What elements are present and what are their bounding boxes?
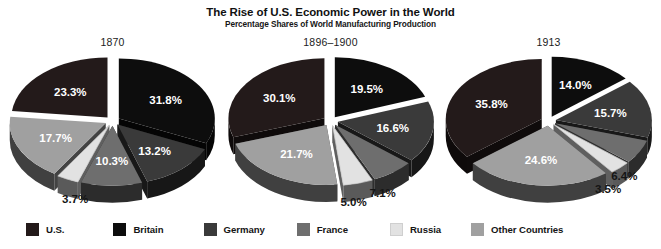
pie-slice-value-label: 3.7% [62,193,88,205]
pie-slice-value-label: 19.5% [350,83,383,95]
legend-item: Other Countries [471,219,563,239]
legend-label: Britain [133,224,163,235]
page-title: The Rise of U.S. Economic Power in the W… [0,6,661,19]
legend-item: Germany [204,219,265,239]
panel-year-label: 1870 [2,36,223,48]
pie-slice-value-label: 10.3% [96,155,129,167]
pie-panel-1896-1900: 1896–1900 19.5%16.6%7.1%5.0%21.7%30.1% [220,36,441,211]
legend-label: Russia [410,224,441,235]
pie-chart-1870: 31.8%13.2%10.3%3.7%17.7%23.3% [2,49,223,211]
legend-swatch-icon [26,223,39,236]
chart-legend: U.S.BritainGermanyFranceRussiaOther Coun… [0,214,661,244]
chart-figure: The Rise of U.S. Economic Power in the W… [0,0,661,249]
legend-label: U.S. [46,224,64,235]
pie-slice-value-label: 5.0% [340,196,366,208]
pie-slice-value-label: 14.0% [559,79,592,91]
pie-slice-value-label: 23.3% [54,86,87,98]
title-block: The Rise of U.S. Economic Power in the W… [0,6,661,30]
pie-chart-1896-1900: 19.5%16.6%7.1%5.0%21.7%30.1% [220,49,441,211]
legend-label: Other Countries [491,224,563,235]
pie-slice-value-label: 30.1% [263,92,296,104]
pie-slice-value-label: 7.1% [370,187,396,199]
pie-slice-value-label: 31.8% [149,94,182,106]
pie-panel-1870: 1870 31.8%13.2%10.3%3.7%17.7%23.3% [2,36,223,211]
pie-slice-value-label: 15.7% [594,107,627,119]
pie-slice-value-label: 6.4% [611,170,637,182]
pie-panels: 1870 31.8%13.2%10.3%3.7%17.7%23.3% 1896–… [0,36,661,211]
legend-label: Germany [224,224,265,235]
legend-swatch-icon [113,223,126,236]
pie-slice-value-label: 17.7% [39,132,72,144]
pie-slice-value-label: 3.5% [595,183,621,195]
legend-item: Russia [390,219,441,239]
chart-subtitle: Percentage Shares of World Manufacturing… [0,19,661,30]
legend-item: U.S. [26,219,64,239]
legend-swatch-icon [297,223,310,236]
legend-swatch-icon [390,223,403,236]
pie-panel-1913: 1913 14.0%15.7%6.4%3.5%24.6%35.8% [438,36,659,211]
legend-label: France [317,224,348,235]
legend-swatch-icon [204,223,217,236]
legend-item: Britain [113,219,163,239]
panel-year-label: 1896–1900 [220,36,441,48]
panel-year-label: 1913 [438,36,659,48]
legend-item: France [297,219,348,239]
pie-slice-value-label: 16.6% [376,122,409,134]
pie-slice-value-label: 24.6% [525,154,558,166]
pie-slice-value-label: 21.7% [280,148,313,160]
pie-slice-value-label: 13.2% [138,145,171,157]
pie-slice-value-label: 35.8% [475,98,508,110]
legend-swatch-icon [471,223,484,236]
pie-chart-1913: 14.0%15.7%6.4%3.5%24.6%35.8% [438,49,659,211]
